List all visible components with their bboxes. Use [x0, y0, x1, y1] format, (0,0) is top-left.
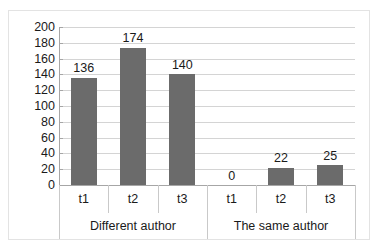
y-axis-tick-label: 60	[11, 131, 55, 144]
y-axis-tick-label: 80	[11, 116, 55, 129]
x-axis: t1t2t3t1t2t3Different authorThe same aut…	[59, 185, 355, 239]
y-axis-tick-label: 20	[11, 163, 55, 176]
y-axis-tick-label: 0	[11, 179, 55, 192]
y-axis-tick-label: 180	[11, 37, 55, 50]
x-axis-separator	[306, 185, 307, 213]
y-axis-tick-label: 140	[11, 68, 55, 81]
bar-slot: 174	[108, 27, 157, 185]
bar[interactable]	[120, 48, 146, 185]
bar-slot: 136	[59, 27, 108, 185]
bar[interactable]	[169, 74, 195, 185]
y-axis-tick-labels: 200180160140120100806040200	[9, 27, 55, 185]
y-axis-tick-label: 40	[11, 147, 55, 160]
x-axis-group-row: Different authorThe same author	[59, 213, 355, 239]
x-axis-group-label: Different author	[59, 213, 207, 239]
bar-slot: 22	[256, 27, 305, 185]
x-axis-category-label: t2	[256, 185, 305, 213]
x-axis-category-label: t1	[59, 185, 108, 213]
x-axis-category-edge	[355, 185, 356, 213]
bar[interactable]	[317, 165, 343, 185]
x-axis-separator	[108, 185, 109, 213]
bar-value-label: 22	[274, 152, 288, 165]
x-axis-separator	[207, 185, 208, 213]
bar-value-label: 25	[323, 150, 337, 163]
y-axis-tick-label: 120	[11, 84, 55, 97]
y-axis-tick-label: 100	[11, 100, 55, 113]
bar-value-label: 140	[172, 59, 193, 72]
plot-area: 13617414002225	[59, 27, 355, 185]
x-axis-category-label: t3	[158, 185, 207, 213]
bar[interactable]	[71, 78, 97, 185]
y-axis-tick-label: 200	[11, 21, 55, 34]
bar-slot: 0	[207, 27, 256, 185]
x-axis-category-label: t1	[207, 185, 256, 213]
x-axis-category-edge	[59, 185, 60, 213]
x-axis-separator	[256, 185, 257, 213]
y-axis-tick-label: 160	[11, 52, 55, 65]
bar-value-label: 174	[123, 32, 144, 45]
bar-value-label: 0	[228, 170, 235, 183]
bar-value-label: 136	[73, 62, 94, 75]
x-axis-separator	[158, 185, 159, 213]
bar[interactable]	[268, 168, 294, 185]
chart-container: 200180160140120100806040200 136174140022…	[8, 10, 370, 240]
x-axis-group-edge	[355, 213, 356, 239]
bar-slot: 140	[158, 27, 207, 185]
bar-slot: 25	[306, 27, 355, 185]
x-axis-category-row: t1t2t3t1t2t3	[59, 185, 355, 213]
x-axis-group-label: The same author	[207, 213, 355, 239]
x-axis-category-label: t2	[108, 185, 157, 213]
x-axis-category-label: t3	[306, 185, 355, 213]
